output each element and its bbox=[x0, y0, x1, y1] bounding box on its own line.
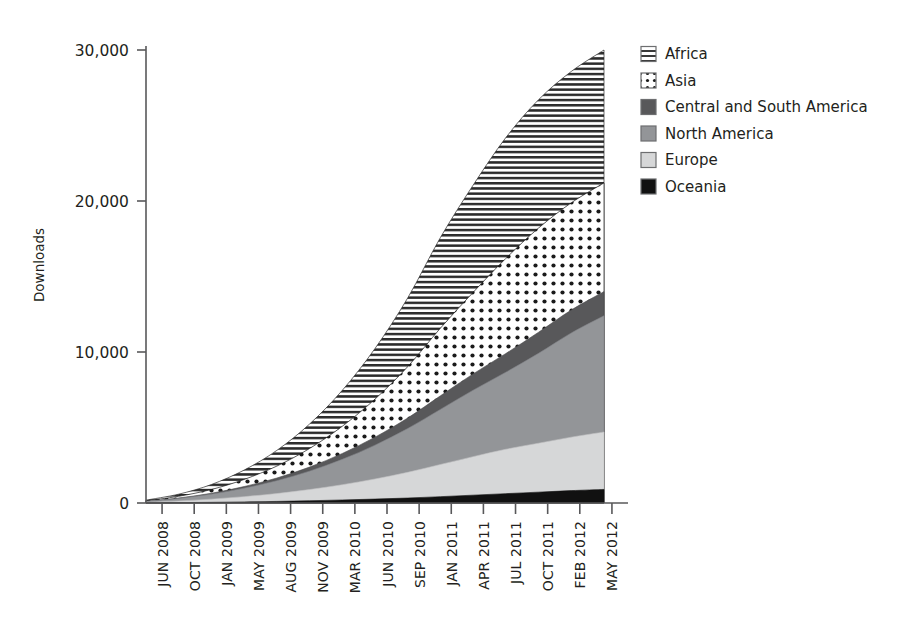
black-swatch bbox=[641, 179, 656, 194]
legend-item-label: Asia bbox=[665, 72, 696, 90]
downloads-stacked-area-chart: 010,00020,00030,000 JUN 2008OCT 2008JAN … bbox=[0, 0, 913, 625]
legend-item-label: North America bbox=[665, 125, 774, 143]
mid-gray-swatch bbox=[641, 126, 656, 141]
legend-item[interactable]: Europe bbox=[641, 151, 718, 169]
legend-item-label: Oceania bbox=[665, 178, 726, 196]
x-axis-tick-label: FEB 2012 bbox=[572, 521, 588, 588]
horizontal-lines-swatch bbox=[641, 47, 656, 62]
legend-item[interactable]: Central and South America bbox=[641, 98, 868, 116]
x-axis-tick-label: MAY 2012 bbox=[604, 521, 620, 591]
light-gray-swatch bbox=[641, 153, 656, 168]
x-axis-tick-label: JAN 2009 bbox=[219, 521, 235, 587]
x-axis-tick-label: MAY 2009 bbox=[251, 521, 267, 591]
dark-gray-swatch bbox=[641, 100, 656, 115]
y-axis-tick-label: 0 bbox=[119, 495, 129, 513]
x-axis-tick-label: NOV 2009 bbox=[315, 521, 331, 593]
x-axis-tick-label: MAR 2010 bbox=[347, 521, 363, 593]
chart-svg: 010,00020,00030,000 JUN 2008OCT 2008JAN … bbox=[0, 0, 913, 625]
x-axis-tick-label: JAN 2011 bbox=[444, 521, 460, 587]
dots-swatch bbox=[641, 73, 656, 88]
x-axis-tick-label: OCT 2008 bbox=[187, 521, 203, 591]
legend-item[interactable]: Oceania bbox=[641, 178, 726, 196]
y-axis-tick-label: 10,000 bbox=[75, 344, 129, 362]
x-axis-tick-label: JUN 2008 bbox=[155, 521, 171, 588]
x-axis-tick-label: APR 2011 bbox=[476, 521, 492, 590]
y-axis-title: Downloads bbox=[31, 228, 47, 302]
x-axis-tick-label: AUG 2009 bbox=[283, 521, 299, 593]
x-axis-tick-label: SEP 2010 bbox=[412, 521, 428, 588]
y-axis-tick-label: 30,000 bbox=[75, 42, 129, 60]
legend-item[interactable]: Africa bbox=[641, 45, 708, 63]
legend-item[interactable]: Asia bbox=[641, 72, 696, 90]
legend-item-label: Africa bbox=[665, 45, 708, 63]
x-axis-tick-label: OCT 2011 bbox=[540, 521, 556, 591]
x-axis-tick-label: JUN 2010 bbox=[380, 521, 396, 588]
x-axis-tick-label: JUL 2011 bbox=[508, 521, 524, 585]
legend-item-label: Europe bbox=[665, 151, 718, 169]
y-axis-tick-label: 20,000 bbox=[75, 193, 129, 211]
legend-item-label: Central and South America bbox=[665, 98, 868, 116]
